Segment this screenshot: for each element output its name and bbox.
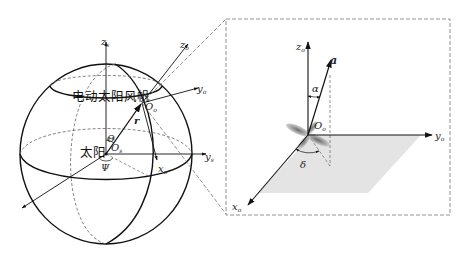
yo-label-right: yo — [434, 130, 445, 142]
Oo-label: Oo — [145, 101, 157, 113]
Oo-label-right: Oo — [314, 120, 326, 132]
r-label: r — [134, 115, 140, 126]
alpha-label: α — [312, 83, 319, 94]
xo-label-right: xo — [232, 201, 242, 213]
a-label: a — [330, 54, 337, 67]
sun-label: 太阳 — [80, 145, 106, 160]
zo-label-right: zo — [295, 41, 305, 53]
yo-label-left: yo — [196, 83, 207, 95]
zo-label-left: zo — [179, 39, 189, 51]
zoom-line-top — [142, 19, 226, 103]
xo-label-left: xo — [158, 163, 168, 175]
alpha-arc — [308, 96, 320, 97]
theta-label: Θ — [107, 133, 115, 144]
r-projection — [106, 154, 150, 177]
diagram-canvas: 电动太阳风帆 太阳 zs ys Os Oo zo yo xo r Θ Ψ — [0, 0, 466, 256]
psi-label: Ψ — [101, 162, 110, 173]
delta-label: δ — [300, 159, 306, 170]
zs-label: zs — [100, 36, 109, 48]
xs-axis — [22, 154, 106, 208]
ys-label: ys — [204, 151, 214, 163]
sail-label: 电动太阳风帆 — [72, 89, 150, 104]
